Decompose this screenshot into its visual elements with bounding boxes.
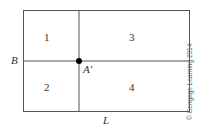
line-b-label: B xyxy=(11,54,18,66)
region-4-label: 4 xyxy=(129,81,135,93)
point-a-prime-label: A′ xyxy=(83,63,92,75)
point-a-prime xyxy=(76,58,82,64)
region-3-label: 3 xyxy=(129,31,135,43)
copyright-notice: © Cengage Learning 2014 xyxy=(186,44,193,120)
region-2-label: 2 xyxy=(44,81,50,93)
region-1-label: 1 xyxy=(44,31,50,43)
line-l-label: L xyxy=(103,114,109,126)
